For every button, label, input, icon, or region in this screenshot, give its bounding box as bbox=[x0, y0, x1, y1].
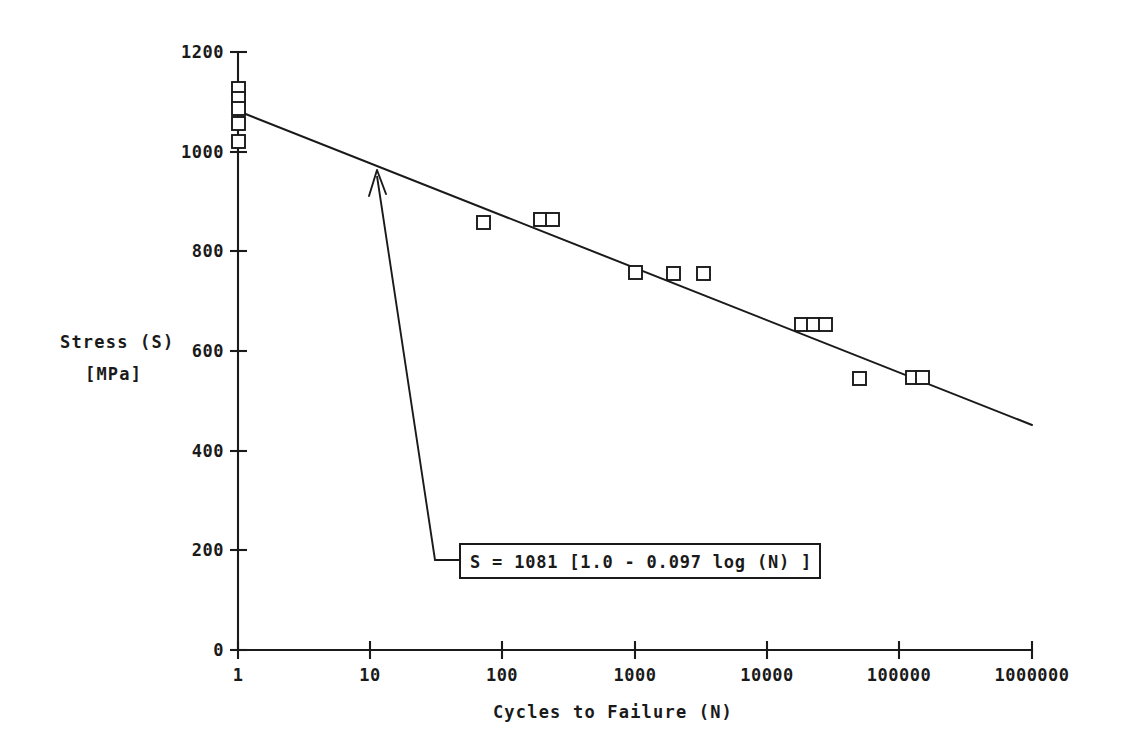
x-tick-label-1000: 1000 bbox=[614, 665, 657, 685]
equation-callout: S = 1081 [1.0 - 0.097 log (N) ] bbox=[460, 544, 820, 578]
chart-canvas: 1200 1000 800 600 400 200 0 1 10 100 100… bbox=[0, 0, 1136, 750]
x-axis-title: Cycles to Failure (N) bbox=[493, 702, 733, 722]
data-point-marker bbox=[477, 216, 490, 229]
data-point-marker bbox=[232, 117, 245, 130]
x-tick-label-1000000: 1000000 bbox=[994, 665, 1069, 685]
data-point-marker bbox=[819, 318, 832, 331]
x-tick-label-100000: 100000 bbox=[867, 665, 931, 685]
y-tick-label-1000: 1000 bbox=[181, 142, 224, 162]
y-tick-labels: 1200 1000 800 600 400 200 0 bbox=[181, 42, 224, 660]
y-tick-label-200: 200 bbox=[192, 540, 224, 560]
data-point-marker bbox=[795, 318, 808, 331]
data-point-marker bbox=[807, 318, 820, 331]
x-tick-label-10000: 10000 bbox=[740, 665, 794, 685]
y-axis-title-line2: [MPa] bbox=[85, 364, 142, 384]
sn-fatigue-chart-figure: 1200 1000 800 600 400 200 0 1 10 100 100… bbox=[0, 0, 1136, 750]
data-point-marker bbox=[667, 267, 680, 280]
y-tick-label-600: 600 bbox=[192, 341, 224, 361]
x-tick-labels: 1 10 100 1000 10000 100000 1000000 bbox=[233, 665, 1070, 685]
data-point-marker bbox=[629, 266, 642, 279]
y-tick-label-400: 400 bbox=[192, 441, 224, 461]
data-point-marker bbox=[916, 371, 929, 384]
data-point-marker bbox=[232, 102, 245, 115]
equation-text: S = 1081 [1.0 - 0.097 log (N) ] bbox=[470, 552, 812, 572]
y-tick-label-1200: 1200 bbox=[181, 42, 224, 62]
data-point-marker bbox=[853, 372, 866, 385]
y-tick-label-800: 800 bbox=[192, 241, 224, 261]
data-point-marker bbox=[232, 135, 245, 148]
x-tick-label-10: 10 bbox=[359, 665, 380, 685]
data-point-marker bbox=[534, 213, 547, 226]
data-markers-group bbox=[232, 82, 929, 385]
y-tick-label-0: 0 bbox=[213, 640, 224, 660]
annotation-leader-group bbox=[369, 170, 460, 560]
y-axis-title-line1: Stress (S) bbox=[60, 332, 174, 352]
data-point-marker bbox=[697, 267, 710, 280]
annotation-leader-line bbox=[377, 176, 460, 560]
x-tick-label-100: 100 bbox=[486, 665, 518, 685]
x-tick-label-1: 1 bbox=[233, 665, 244, 685]
data-point-marker bbox=[546, 213, 559, 226]
